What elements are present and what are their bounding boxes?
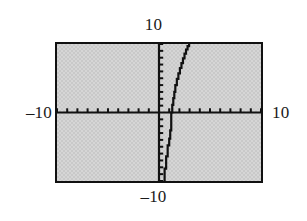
y-max-label: 10: [0, 16, 307, 33]
y-min-label: –10: [0, 188, 307, 205]
plot-canvas: [57, 44, 261, 181]
plot-frame: [55, 42, 263, 183]
x-min-label: –10: [10, 104, 52, 121]
x-max-label: 10: [272, 104, 307, 121]
figure-viewport: 10 –10 10 –10: [0, 0, 307, 221]
